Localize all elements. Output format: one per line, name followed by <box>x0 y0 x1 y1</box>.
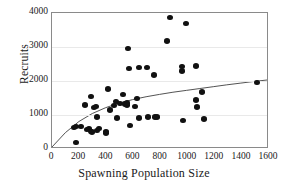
data-point <box>199 89 205 94</box>
y-tick-label: 1000 <box>18 109 48 119</box>
data-point <box>183 21 189 26</box>
data-point <box>107 107 113 112</box>
data-point <box>194 104 200 109</box>
data-point <box>105 86 111 91</box>
data-point <box>136 65 142 70</box>
data-point <box>94 114 100 119</box>
data-point <box>96 126 102 131</box>
gridline <box>52 81 267 82</box>
data-point <box>180 118 186 123</box>
data-point <box>103 130 109 135</box>
data-point <box>120 92 126 97</box>
gridline <box>52 47 267 48</box>
x-axis-title: Spawning Population Size <box>0 166 288 181</box>
data-point <box>132 104 138 109</box>
data-point <box>124 100 130 105</box>
data-point <box>193 97 199 102</box>
data-point <box>82 102 88 107</box>
data-point <box>201 116 207 121</box>
data-point <box>167 15 173 20</box>
data-point <box>73 140 79 145</box>
data-point <box>114 115 120 120</box>
data-point <box>136 115 142 120</box>
y-tick-label: 2000 <box>18 75 48 85</box>
data-point <box>151 72 157 77</box>
x-tick-label: 1600 <box>250 151 286 162</box>
y-axis-tick-labels: 01000200030004000 <box>14 0 48 193</box>
data-point <box>134 96 140 101</box>
data-point <box>93 104 99 109</box>
x-axis-tick-labels: 02004006008001000120014001600 <box>51 151 268 165</box>
data-point <box>127 123 133 128</box>
plot-area <box>51 12 268 148</box>
data-point <box>254 80 260 85</box>
scatter-chart-figure: Recruits 01000200030004000 0200400600800… <box>0 0 288 193</box>
data-point <box>144 65 150 70</box>
data-point <box>125 46 131 51</box>
data-point <box>126 66 132 71</box>
data-point <box>154 114 160 119</box>
y-tick-label: 3000 <box>18 41 48 51</box>
data-point <box>164 38 170 43</box>
data-point <box>145 114 151 119</box>
data-point <box>88 94 94 99</box>
data-point <box>193 63 199 68</box>
y-tick-label: 4000 <box>18 7 48 17</box>
